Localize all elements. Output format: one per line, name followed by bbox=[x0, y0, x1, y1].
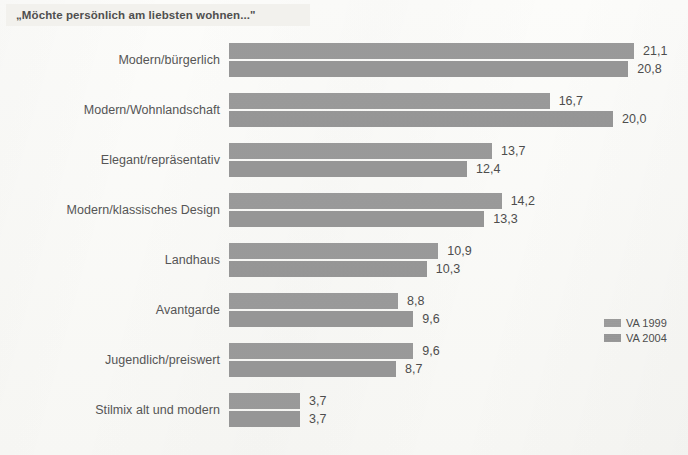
bar-group: Jugendlich/preiswert9,68,7 bbox=[0, 342, 688, 378]
bar-value-label: 10,3 bbox=[427, 261, 460, 277]
bar-va-2004 bbox=[229, 211, 484, 227]
bar-row: 8,7 bbox=[229, 361, 466, 377]
bar-row: 8,8 bbox=[229, 293, 468, 309]
bar-va-1999 bbox=[229, 43, 634, 59]
category-label: Avantgarde bbox=[0, 292, 220, 328]
category-label: Landhaus bbox=[0, 242, 220, 278]
bar-va-1999 bbox=[229, 243, 438, 259]
bar-value-label: 14,2 bbox=[502, 193, 535, 209]
bar-va-1999 bbox=[229, 193, 502, 209]
bar-va-1999 bbox=[229, 343, 413, 359]
legend-swatch-va-2004 bbox=[604, 334, 621, 342]
legend-item-va-1999: VA 1999 bbox=[604, 316, 667, 329]
bar-value-label: 20,8 bbox=[628, 61, 661, 77]
bar-chart-plot-area: Modern/bürgerlich21,120,8Modern/Wohnland… bbox=[0, 36, 688, 446]
bar-value-label: 9,6 bbox=[413, 343, 439, 359]
chart-legend: VA 1999 VA 2004 bbox=[604, 316, 667, 346]
page-title: „Möchte persönlich am liebsten wohnen...… bbox=[16, 9, 256, 21]
bar-group: Avantgarde8,89,6 bbox=[0, 292, 688, 328]
bar-group: Modern/Wohnlandschaft16,720,0 bbox=[0, 92, 688, 128]
bar-value-label: 13,3 bbox=[484, 211, 517, 227]
bar-va-1999 bbox=[229, 93, 550, 109]
bar-row: 21,1 bbox=[229, 43, 688, 59]
bar-row: 20,8 bbox=[229, 61, 688, 77]
bar-row: 3,7 bbox=[229, 411, 370, 427]
bar-value-label: 9,6 bbox=[413, 311, 439, 327]
bar-value-label: 16,7 bbox=[550, 93, 583, 109]
bar-value-label: 8,8 bbox=[398, 293, 424, 309]
bar-row: 13,7 bbox=[229, 143, 562, 159]
bar-row: 13,3 bbox=[229, 211, 554, 227]
category-label: Jugendlich/preiswert bbox=[0, 342, 220, 378]
bar-va-2004 bbox=[229, 361, 396, 377]
bar-value-label: 21,1 bbox=[634, 43, 667, 59]
bar-value-label: 8,7 bbox=[396, 361, 422, 377]
bar-va-2004 bbox=[229, 161, 467, 177]
bar-row: 10,9 bbox=[229, 243, 508, 259]
category-label: Modern/bürgerlich bbox=[0, 42, 220, 78]
bar-value-label: 3,7 bbox=[300, 411, 326, 427]
bar-va-2004 bbox=[229, 411, 300, 427]
bar-value-label: 10,9 bbox=[438, 243, 471, 259]
bar-va-1999 bbox=[229, 293, 398, 309]
bar-va-2004 bbox=[229, 261, 427, 277]
bar-va-1999 bbox=[229, 393, 300, 409]
category-label: Modern/klassisches Design bbox=[0, 192, 220, 228]
category-label: Stilmix alt und modern bbox=[0, 392, 220, 428]
bar-va-2004 bbox=[229, 311, 413, 327]
bar-row: 3,7 bbox=[229, 393, 370, 409]
category-label: Elegant/repräsentativ bbox=[0, 142, 220, 178]
bar-va-1999 bbox=[229, 143, 492, 159]
bar-va-2004 bbox=[229, 61, 628, 77]
bar-row: 9,6 bbox=[229, 311, 483, 327]
legend-label-va-2004: VA 2004 bbox=[626, 332, 667, 344]
bar-row: 12,4 bbox=[229, 161, 537, 177]
legend-swatch-va-1999 bbox=[604, 319, 621, 327]
bar-value-label: 3,7 bbox=[300, 393, 326, 409]
bar-row: 14,2 bbox=[229, 193, 572, 209]
bar-row: 10,3 bbox=[229, 261, 497, 277]
legend-label-va-1999: VA 1999 bbox=[626, 317, 667, 329]
bar-group: Landhaus10,910,3 bbox=[0, 242, 688, 278]
bar-row: 16,7 bbox=[229, 93, 620, 109]
chart-page: „Möchte persönlich am liebsten wohnen...… bbox=[0, 0, 688, 455]
category-label: Modern/Wohnlandschaft bbox=[0, 92, 220, 128]
bar-row: 9,6 bbox=[229, 343, 483, 359]
bar-group: Stilmix alt und modern3,73,7 bbox=[0, 392, 688, 428]
bar-row: 20,0 bbox=[229, 111, 683, 127]
legend-item-va-2004: VA 2004 bbox=[604, 331, 667, 344]
chart-title-box: „Möchte persönlich am liebsten wohnen...… bbox=[6, 4, 310, 26]
bar-group: Modern/bürgerlich21,120,8 bbox=[0, 42, 688, 78]
bar-va-2004 bbox=[229, 111, 613, 127]
bar-value-label: 12,4 bbox=[467, 161, 500, 177]
bar-group: Elegant/repräsentativ13,712,4 bbox=[0, 142, 688, 178]
bar-value-label: 13,7 bbox=[492, 143, 525, 159]
bar-value-label: 20,0 bbox=[613, 111, 646, 127]
bar-group: Modern/klassisches Design14,213,3 bbox=[0, 192, 688, 228]
